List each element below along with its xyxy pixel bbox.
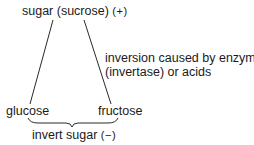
sucrose-text: sugar (sucrose) [22,4,109,18]
annotation-line-1: inversion caused by enzyme [105,51,254,65]
invert-sugar-label: invert sugar (−) [32,128,116,142]
fructose-label: fructose [98,104,142,118]
invert-sugar-sign: (−) [101,129,116,141]
sucrose-sign: (+) [112,5,127,17]
invert-sugar-text: invert sugar [32,128,97,142]
line-sucrose-to-glucose [30,20,53,104]
annotation-line-2: (invertase) or acids [105,65,211,79]
sucrose-label: sugar (sucrose) (+) [22,4,128,18]
brace-underline [28,118,118,127]
glucose-label: glucose [6,104,49,118]
